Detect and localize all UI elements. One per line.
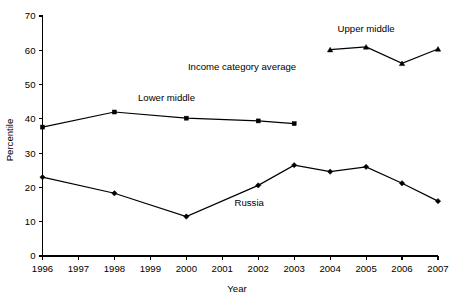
series-polyline — [330, 47, 438, 63]
series-upper-middle — [327, 45, 440, 66]
chart-container: 010203040506070 199619971998199920002001… — [0, 0, 449, 298]
y-tick-label: 50 — [25, 79, 36, 90]
data-point-square-marker — [41, 125, 45, 129]
data-point-triangle-marker — [399, 61, 404, 66]
x-tick-label: 2004 — [319, 263, 341, 274]
chart-annotation: Income category average — [188, 61, 296, 72]
x-tick-label: 2003 — [284, 263, 305, 274]
data-point-diamond-marker — [40, 174, 45, 179]
data-point-square-marker — [256, 119, 260, 123]
y-tick-label: 40 — [25, 113, 36, 124]
data-point-square-marker — [184, 116, 188, 120]
data-point-diamond-marker — [291, 162, 296, 167]
x-tick-label: 1999 — [140, 263, 161, 274]
data-point-diamond-marker — [363, 164, 368, 169]
x-tick-label: 2007 — [427, 263, 448, 274]
y-tick-label: 70 — [25, 10, 36, 21]
y-axis-ticks: 010203040506070 — [25, 10, 43, 261]
x-axis-title: Year — [227, 283, 247, 294]
data-point-diamond-marker — [399, 181, 404, 186]
data-point-diamond-marker — [256, 183, 261, 188]
x-tick-label: 2000 — [176, 263, 197, 274]
data-point-square-marker — [112, 110, 116, 114]
x-tick-label: 1997 — [68, 263, 89, 274]
data-point-triangle-marker — [435, 47, 440, 52]
data-point-diamond-marker — [435, 198, 440, 203]
y-axis-title: Percentile — [4, 119, 15, 162]
y-tick-label: 10 — [25, 216, 36, 227]
series-label-russia: Russia — [235, 197, 265, 208]
x-tick-label: 2005 — [355, 263, 376, 274]
annotations-group: Income category average — [188, 61, 296, 72]
data-point-diamond-marker — [184, 214, 189, 219]
x-tick-label: 2001 — [212, 263, 233, 274]
series-label-lower-middle: Lower middle — [138, 92, 195, 103]
y-tick-label: 60 — [25, 45, 36, 56]
x-tick-label: 2006 — [391, 263, 412, 274]
y-tick-label: 0 — [30, 250, 35, 261]
series-label-upper-middle: Upper middle — [338, 23, 395, 34]
y-tick-label: 20 — [25, 182, 36, 193]
series-polyline — [43, 165, 439, 216]
x-axis-ticks: 1996199719981999200020012002200320042005… — [32, 256, 449, 274]
x-tick-label: 1996 — [32, 263, 53, 274]
series-lower-middle — [41, 110, 297, 129]
data-point-diamond-marker — [327, 169, 332, 174]
x-tick-label: 1998 — [104, 263, 125, 274]
data-point-diamond-marker — [112, 191, 117, 196]
data-point-square-marker — [292, 122, 296, 126]
y-tick-label: 30 — [25, 148, 36, 159]
x-tick-label: 2002 — [248, 263, 269, 274]
line-chart: 010203040506070 199619971998199920002001… — [0, 0, 449, 298]
series-russia — [40, 162, 441, 219]
